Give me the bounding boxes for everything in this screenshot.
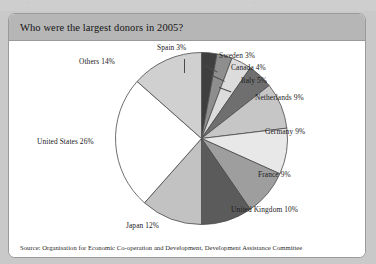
top-strip-ghost-left: · <box>26 0 29 7</box>
panel-header: Who were the largest donors in 2005? <box>9 14 365 41</box>
label-italy: Italy 5% <box>241 76 267 85</box>
label-netherlands: Netherlands 9% <box>255 93 304 102</box>
label-united-states: United States 26% <box>37 137 94 146</box>
label-united-kingdom: United Kingdom 10% <box>231 205 298 214</box>
page-top-strip: · · <box>0 0 376 11</box>
label-germany: Germany 9% <box>265 127 305 136</box>
page-title: Who were the largest donors in 2005? <box>20 22 183 33</box>
label-france: France 9% <box>258 170 291 179</box>
top-strip-ghost-right: · <box>252 0 255 7</box>
label-spain: Spain 3% <box>157 43 186 52</box>
label-others: Others 14% <box>79 57 115 66</box>
pie-chart: Spain 3% Sweden 3% Canada 4% Italy 5% Ne… <box>9 41 365 257</box>
chart-panel: Who were the largest donors in 2005? Spa… <box>8 13 366 258</box>
label-japan: Japan 12% <box>126 221 159 230</box>
label-canada: Canada 4% <box>231 63 266 72</box>
leader-spain <box>184 59 185 73</box>
source-note: Source: Organisation for Economic Co-ope… <box>20 244 302 251</box>
label-sweden: Sweden 3% <box>219 51 255 60</box>
